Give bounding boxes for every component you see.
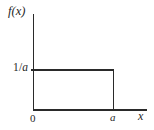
origin-label: 0 [30, 113, 36, 124]
y-axis-label: f(x) [8, 5, 25, 18]
y-tick-numerator: 1 [13, 61, 19, 73]
figure-container: f(x) 1/a 0 a x [0, 0, 154, 130]
y-tick-label-one-over-a: 1/a [13, 62, 28, 74]
y-tick-denominator: a [22, 61, 28, 73]
x-axis-label: x [138, 110, 143, 122]
x-tick-label-a: a [110, 112, 116, 123]
